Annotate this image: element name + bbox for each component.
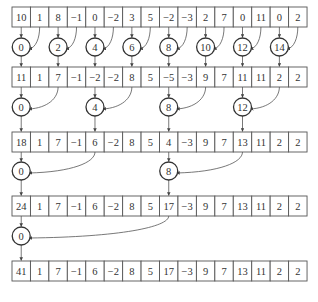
cell-value: 24	[16, 201, 27, 212]
array-cell: 5	[141, 132, 159, 152]
edge-arrow	[250, 87, 279, 109]
adder-node: 0	[12, 162, 30, 180]
array-cell: 6	[86, 261, 104, 281]
array-cell: 24	[12, 196, 30, 216]
array-cell: −1	[67, 67, 85, 87]
cell-value: 2	[203, 12, 208, 23]
array-cell: 5	[141, 196, 159, 216]
cell-value: 11	[256, 72, 266, 83]
node-label: 6	[129, 42, 134, 53]
array-cell: 7	[215, 132, 233, 152]
cell-value: 0	[277, 12, 282, 23]
cell-value: 6	[92, 137, 97, 148]
array-cell: 18	[12, 132, 30, 152]
cell-value: 5	[148, 72, 153, 83]
cell-value: 2	[295, 72, 300, 83]
edge-arrow	[29, 216, 169, 238]
cell-value: 2	[277, 72, 282, 83]
array-cell: −3	[178, 7, 196, 27]
adder-node: 4	[86, 98, 104, 116]
cell-value: 9	[203, 201, 208, 212]
cell-value: 7	[55, 137, 60, 148]
array-cell: −1	[67, 7, 85, 27]
cell-value: 7	[221, 137, 226, 148]
cell-value: 9	[203, 266, 208, 277]
cell-value: 8	[55, 12, 60, 23]
cell-value: 1	[37, 72, 42, 83]
array-cell: 8	[123, 132, 141, 152]
node-label: 4	[92, 42, 98, 53]
cell-value: 8	[129, 72, 134, 83]
array-cell: 11	[252, 67, 270, 87]
adder-node: 0	[12, 38, 30, 56]
node-label: 0	[19, 102, 24, 113]
cell-value: 8	[129, 266, 134, 277]
cell-value: 5	[148, 12, 153, 23]
node-label: 10	[200, 42, 211, 53]
array-cell: 17	[160, 196, 178, 216]
cell-value: 2	[277, 201, 282, 212]
array-cell: 3	[123, 7, 141, 27]
node-label: 0	[19, 166, 24, 177]
array-cell: −2	[104, 132, 122, 152]
cell-value: 1	[37, 12, 42, 23]
array-row: 1117−1−2−285−5−397111122	[12, 67, 307, 87]
cell-value: −3	[182, 137, 193, 148]
array-cell: 41	[12, 261, 30, 281]
node-label: 0	[19, 231, 24, 242]
cell-value: 7	[55, 72, 60, 83]
array-row: 1018−10−235−2−32701102	[12, 7, 307, 27]
array-cell: 9	[196, 67, 214, 87]
cell-value: 2	[295, 201, 300, 212]
array-cell: 11	[252, 132, 270, 152]
adder-node: 0	[12, 227, 30, 245]
array-cell: 10	[12, 7, 30, 27]
cell-value: −2	[108, 72, 119, 83]
array-cell: 9	[196, 261, 214, 281]
cell-value: 41	[16, 266, 27, 277]
cell-value: 2	[277, 266, 282, 277]
array-cell: 7	[49, 196, 67, 216]
cell-value: −1	[71, 201, 82, 212]
node-label: 4	[92, 102, 98, 113]
cell-value: −2	[108, 201, 119, 212]
node-label: 12	[237, 102, 248, 113]
array-cell: 7	[49, 132, 67, 152]
cell-value: 2	[295, 137, 300, 148]
cell-value: 9	[203, 137, 208, 148]
cell-value: 0	[92, 12, 97, 23]
cell-value: 2	[277, 137, 282, 148]
cell-value: −2	[108, 137, 119, 148]
array-cell: 7	[215, 261, 233, 281]
array-cell: 1	[30, 196, 48, 216]
cell-value: −1	[71, 266, 82, 277]
array-row: 2417−16−28517−397131122	[12, 196, 307, 216]
array-cell: 2	[270, 67, 288, 87]
cell-value: 6	[92, 201, 97, 212]
edge-arrow	[29, 152, 95, 173]
array-cell: 9	[196, 132, 214, 152]
cell-value: 7	[221, 266, 226, 277]
array-cell: 4	[160, 132, 178, 152]
array-cell: 7	[215, 196, 233, 216]
cell-value: −5	[163, 72, 174, 83]
cell-value: 2	[295, 266, 300, 277]
array-cell: 8	[123, 67, 141, 87]
cell-value: 11	[256, 12, 266, 23]
cell-value: 11	[16, 72, 26, 83]
array-cell: 7	[215, 7, 233, 27]
array-cell: 5	[141, 67, 159, 87]
adder-node: 8	[160, 98, 178, 116]
cell-value: 7	[55, 266, 60, 277]
cell-value: −1	[71, 12, 82, 23]
array-cell: 2	[289, 67, 307, 87]
edge-arrow	[176, 152, 242, 173]
array-cell: 11	[252, 261, 270, 281]
cell-value: 11	[237, 72, 247, 83]
adder-node: 10	[197, 38, 215, 56]
edge-arrow	[103, 87, 132, 109]
cell-value: 7	[55, 201, 60, 212]
cell-value: 6	[92, 266, 97, 277]
array-cell: 13	[233, 132, 251, 152]
adder-node: 12	[234, 98, 252, 116]
